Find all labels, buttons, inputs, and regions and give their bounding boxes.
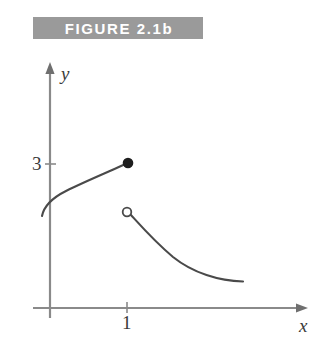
filled-point-marker — [123, 158, 134, 169]
x-axis-label: x — [299, 316, 307, 335]
y-axis-label: y — [61, 64, 69, 83]
open-point-marker — [123, 208, 132, 217]
y-tick-label-3: 3 — [32, 154, 42, 173]
plot-canvas — [0, 0, 330, 353]
curve-right-branch — [131, 215, 244, 282]
x-tick-label-1: 1 — [122, 313, 132, 332]
figure-root: FIGURE 2.1b y x 3 1 — [0, 0, 330, 353]
curve-left-branch — [42, 163, 128, 216]
y-axis — [45, 62, 54, 318]
x-axis — [33, 303, 308, 312]
